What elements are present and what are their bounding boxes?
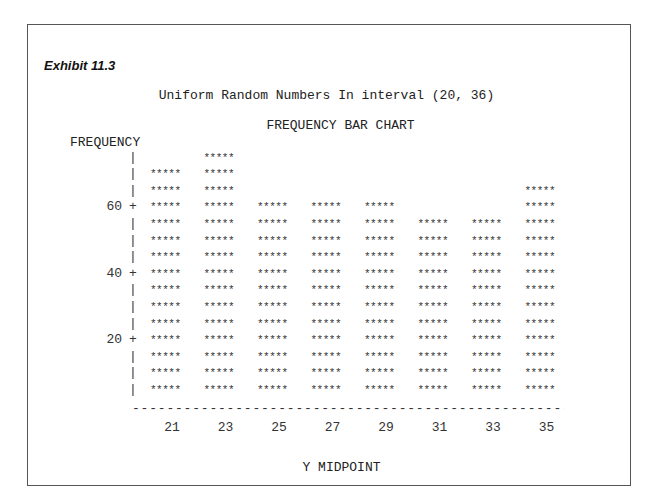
y-axis-tick-mark: + [129,199,137,214]
y-tick-label: 60 [82,199,122,214]
y-axis-line: | [129,316,137,331]
bar-segment: ***** [471,218,502,230]
bar-segment: ***** [418,334,449,346]
y-axis-line: | [129,365,137,380]
bar-segment: ***** [418,268,449,280]
x-tick-label: 23 [206,420,246,435]
bar-segment: ***** [364,284,395,296]
x-tick-label: 25 [259,420,299,435]
y-axis-line: | [129,183,137,198]
y-axis-line: | [129,150,137,165]
bar-segment: ***** [364,318,395,330]
bar-segment: ***** [471,367,502,379]
bar-segment: ***** [257,251,288,263]
bar-segment: ***** [311,235,342,247]
bar-segment: ***** [150,185,181,197]
bar-segment: ***** [257,318,288,330]
bar-segment: ***** [471,251,502,263]
bar-segment: ***** [150,201,181,213]
bar-segment: ***** [311,218,342,230]
bar-segment: ***** [471,268,502,280]
x-tick-label: 31 [420,420,460,435]
bar-segment: ***** [471,384,502,396]
bar-segment: ***** [257,218,288,230]
bar-segment: ***** [311,284,342,296]
x-axis-line: ----------------------------------------… [132,401,564,416]
bar-segment: ***** [150,268,181,280]
bar-segment: ***** [311,384,342,396]
bar-segment: ***** [257,268,288,280]
bar-segment: ***** [150,284,181,296]
bar-segment: ***** [364,367,395,379]
bar-segment: ***** [525,384,556,396]
bar-segment: ***** [418,367,449,379]
bar-segment: ***** [364,268,395,280]
exhibit-label: Exhibit 11.3 [44,58,115,73]
bar-segment: ***** [257,301,288,313]
bar-segment: ***** [525,218,556,230]
bar-segment: ***** [418,351,449,363]
y-axis-line: | [129,233,137,248]
bar-segment: ***** [204,185,235,197]
bar-segment: ***** [525,334,556,346]
bar-segment: ***** [204,318,235,330]
bar-segment: ***** [364,201,395,213]
bar-segment: ***** [525,351,556,363]
bar-segment: ***** [525,268,556,280]
bar-segment: ***** [204,152,235,164]
bar-segment: ***** [364,334,395,346]
bar-segment: ***** [204,268,235,280]
bar-segment: ***** [150,334,181,346]
bar-segment: ***** [204,218,235,230]
bar-segment: ***** [525,251,556,263]
bar-segment: ***** [525,318,556,330]
bar-segment: ***** [204,235,235,247]
bar-segment: ***** [311,351,342,363]
bar-segment: ***** [364,235,395,247]
bar-segment: ***** [257,201,288,213]
y-tick-label: 40 [82,266,122,281]
bar-segment: ***** [525,284,556,296]
x-tick-label: 29 [366,420,406,435]
bar-segment: ***** [204,367,235,379]
bar-segment: ***** [364,218,395,230]
bar-segment: ***** [471,318,502,330]
bar-segment: ***** [364,301,395,313]
bar-segment: ***** [525,367,556,379]
y-axis-line: | [129,249,137,264]
bar-segment: ***** [204,201,235,213]
x-axis-label: Y MIDPOINT [0,460,653,475]
bar-segment: ***** [150,251,181,263]
bar-segment: ***** [150,318,181,330]
y-tick-label: 20 [82,332,122,347]
y-axis-line: | [129,349,137,364]
bar-segment: ***** [311,301,342,313]
bar-segment: ***** [471,235,502,247]
bar-segment: ***** [418,301,449,313]
bar-segment: ***** [311,334,342,346]
bar-segment: ***** [311,251,342,263]
bar-segment: ***** [204,351,235,363]
y-axis-tick-mark: + [129,332,137,347]
bar-segment: ***** [418,218,449,230]
y-axis-line: | [129,382,137,397]
x-tick-label: 33 [473,420,513,435]
y-axis-line: | [129,299,137,314]
bar-segment: ***** [418,251,449,263]
x-tick-label: 27 [313,420,353,435]
y-axis-line: | [129,282,137,297]
bar-segment: ***** [204,168,235,180]
bar-segment: ***** [471,351,502,363]
bar-segment: ***** [311,318,342,330]
bar-segment: ***** [204,334,235,346]
y-axis-line: | [129,166,137,181]
bar-segment: ***** [471,301,502,313]
bar-segment: ***** [204,384,235,396]
bar-segment: ***** [204,301,235,313]
x-tick-label: 21 [152,420,192,435]
bar-segment: ***** [364,251,395,263]
bar-segment: ***** [418,384,449,396]
bar-segment: ***** [525,301,556,313]
bar-segment: ***** [525,235,556,247]
bar-segment: ***** [471,334,502,346]
